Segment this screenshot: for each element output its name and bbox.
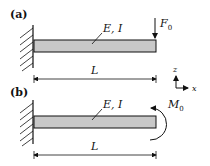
x-axis-label: x [192,84,197,93]
length-label-a: L [90,64,98,77]
panel-b-label: (b) [10,86,28,99]
beam-a [34,40,156,52]
force-label: F0 [159,17,172,32]
length-label-b: L [90,140,98,153]
fixed-wall-b [20,100,33,146]
z-axis-label: z [172,65,178,74]
material-label-b: E, I [102,98,123,111]
panel-a-label: (a) [10,8,28,21]
coordinate-axes: z x [172,65,197,93]
material-label-a: E, I [102,22,123,35]
fixed-wall-a [20,25,33,71]
cantilever-diagram: (a) E, I F0 L z x (b) [0,0,210,166]
panel-b: (b) E, I M0 L [10,86,184,159]
panel-a: (a) E, I F0 L [10,8,172,83]
moment-label: M0 [167,98,184,113]
beam-b [34,116,156,128]
